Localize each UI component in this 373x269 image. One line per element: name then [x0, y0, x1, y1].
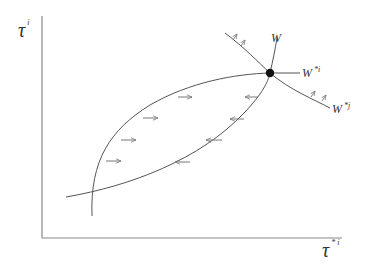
- right-arrows: [106, 97, 192, 161]
- arrow-up-icon: [241, 40, 245, 46]
- equilibrium-point: [266, 69, 274, 77]
- left-arrows: [175, 97, 258, 162]
- curve-label-W-star-j: W*j: [332, 103, 350, 115]
- diagram-canvas: [0, 0, 373, 269]
- axes: [42, 16, 342, 238]
- x-axis-label: τ* i: [322, 240, 339, 260]
- curve-label-text: W: [302, 66, 312, 80]
- y-axis-superscript: i: [27, 18, 29, 27]
- x-axis-symbol: τ: [322, 239, 329, 261]
- curve-W-star-i: [92, 73, 300, 216]
- curve-label-W-star-i: W*i: [302, 67, 320, 79]
- curve-label-superscript: *i: [314, 65, 320, 74]
- curve-label-text: W: [332, 102, 342, 116]
- y-axis-label: τi: [18, 20, 29, 40]
- x-axis-superscript: * i: [331, 238, 339, 247]
- curve-label-text: W: [271, 31, 281, 45]
- arrow-up-icon: [322, 95, 326, 101]
- curve-label-superscript: *j: [344, 101, 350, 110]
- y-axis-symbol: τ: [18, 19, 25, 41]
- curve-label-W: W: [271, 32, 281, 44]
- curve-W: [66, 38, 277, 197]
- arrow-up-icon: [233, 34, 237, 40]
- arrow-up-icon: [311, 91, 315, 97]
